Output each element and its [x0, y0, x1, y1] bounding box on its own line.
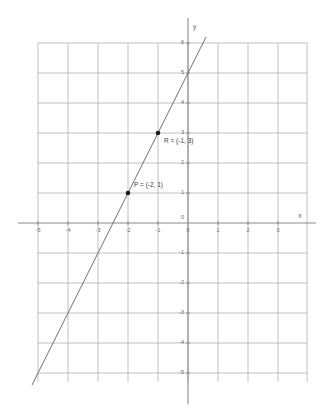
y-tick-label-3: 3 — [181, 130, 184, 136]
y-tick-label-0: 0 — [181, 215, 184, 221]
y-tick-label-neg2: -2 — [179, 280, 184, 286]
x-tick-label-neg5: -5 — [36, 228, 41, 234]
y-tick-label-2: 2 — [181, 160, 184, 166]
series-line-0 — [32, 37, 206, 385]
x-tick-label-1: 1 — [216, 228, 219, 234]
y-tick-label-6: 6 — [181, 40, 184, 46]
x-tick-label-neg3: -3 — [96, 228, 101, 234]
x-tick-label-neg4: -4 — [66, 228, 71, 234]
point-label-r: R = (-1, 3) — [164, 138, 193, 145]
y-tick-label-1: 1 — [181, 190, 184, 196]
x-tick-label-neg1: -1 — [156, 228, 161, 234]
axes — [18, 18, 316, 404]
y-tick-label-neg1: -1 — [179, 250, 184, 256]
point-label-p: P = (-2, 1) — [134, 182, 163, 189]
grid-lines — [38, 43, 307, 382]
coordinate-plane-figure: -5-4-3-2-101236543210-1-2-3-4-5xyP = (-2… — [0, 0, 324, 411]
x-tick-label-neg2: -2 — [126, 228, 131, 234]
y-tick-label-neg5: -5 — [179, 370, 184, 376]
y-tick-label-4: 4 — [181, 100, 184, 106]
x-tick-label-2: 2 — [246, 228, 249, 234]
point-marker-p — [126, 191, 131, 196]
series-group — [32, 37, 206, 385]
point-marker-r — [156, 131, 161, 136]
y-axis-label: y — [193, 24, 196, 31]
y-tick-label-5: 5 — [181, 70, 184, 76]
y-tick-label-neg4: -4 — [179, 340, 184, 346]
x-tick-label-3: 3 — [276, 228, 279, 234]
y-tick-label-neg3: -3 — [179, 310, 184, 316]
graph-canvas — [0, 0, 324, 411]
x-tick-label-0: 0 — [186, 228, 189, 234]
x-axis-label: x — [298, 213, 301, 220]
